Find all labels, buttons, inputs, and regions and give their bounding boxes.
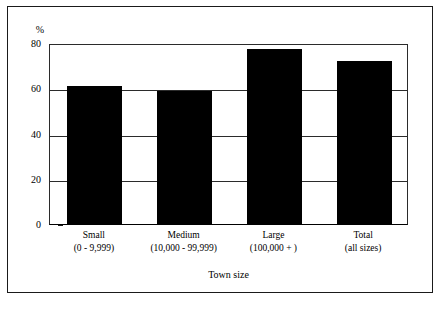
y-axis-unit-label: % [22,24,44,35]
x-axis-tick-labels: Small(0 - 9,999)Medium(10,000 - 99,999)L… [49,229,408,263]
y-tick-label: 60 [14,84,41,94]
x-tick-label-line1: Large [229,229,319,242]
bar [67,86,122,224]
y-tick-label: 20 [14,175,41,185]
x-tick-label: Medium(10,000 - 99,999) [139,229,229,255]
bar-series [50,45,407,224]
x-tick-label-line1: Small [49,229,139,242]
x-tick-label: Large(100,000 + ) [229,229,319,255]
y-tick-label: 80 [14,39,41,49]
x-tick-label-line2: (10,000 - 99,999) [139,242,229,255]
plot-area [49,44,408,225]
y-tick-label: 40 [14,130,41,140]
x-tick-label: Total(all sizes) [318,229,408,255]
chart-figure: % 020406080 Small(0 - 9,999)Medium(10,00… [0,0,443,309]
x-tick-label-line2: (0 - 9,999) [49,242,139,255]
x-tick-label-line2: (100,000 + ) [229,242,319,255]
bar [337,61,392,224]
y-tick-mark [58,225,63,226]
x-tick-label-line2: (all sizes) [318,242,408,255]
x-tick-label: Small(0 - 9,999) [49,229,139,255]
y-tick-label: 0 [14,220,41,230]
x-tick-label-line1: Medium [139,229,229,242]
x-axis-title: Town size [49,269,408,281]
y-axis-tick-labels: 020406080 [14,44,41,225]
bar [157,91,212,224]
x-tick-label-line1: Total [318,229,408,242]
bar [247,49,302,224]
